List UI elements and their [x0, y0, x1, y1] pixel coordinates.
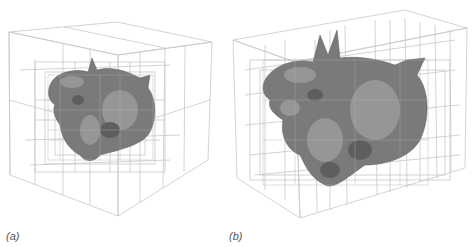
octree-dragon-figure — [0, 0, 225, 230]
panel-a: (a) — [0, 0, 225, 230]
panel-b: (b) — [225, 0, 473, 230]
kdtree-dragon-figure — [225, 0, 473, 230]
caption-b: (b) — [229, 230, 242, 242]
dragon-model — [48, 58, 154, 161]
caption-a: (a) — [6, 230, 19, 242]
